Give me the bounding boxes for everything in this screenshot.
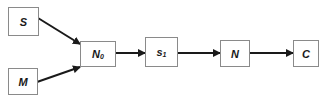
node-c: C [293, 40, 319, 67]
node-m: M [8, 68, 38, 95]
node-n-label: N [231, 48, 239, 60]
node-s-label: S [20, 16, 27, 28]
flow-diagram: S M N0 s1 N C [0, 0, 326, 99]
edge-s-to-n0 [38, 18, 80, 44]
node-s1-subscript: 1 [163, 51, 167, 58]
node-n0-subscript: 0 [100, 53, 104, 60]
node-n0: N0 [80, 41, 116, 67]
node-m-label: M [18, 76, 27, 88]
node-n: N [220, 40, 250, 67]
node-n0-label: N [92, 48, 100, 60]
node-s1: s1 [145, 37, 178, 67]
node-s: S [8, 7, 39, 36]
edge-m-to-n0 [37, 67, 80, 82]
node-c-label: C [302, 48, 310, 60]
